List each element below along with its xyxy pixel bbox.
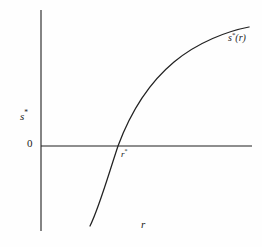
x-axis-label: r bbox=[141, 219, 145, 230]
s-star-curve bbox=[90, 27, 249, 226]
figure-canvas: s* 0 r* r s*(r) bbox=[0, 0, 262, 247]
curve-label: s*(r) bbox=[228, 33, 246, 43]
x-intercept-label: r* bbox=[121, 150, 128, 159]
y-axis-label-superscript: * bbox=[24, 108, 28, 117]
plot-svg bbox=[0, 0, 262, 247]
origin-tick-label: 0 bbox=[27, 138, 33, 149]
y-axis-label: s* bbox=[20, 111, 28, 122]
curve-label-argument: (r) bbox=[235, 32, 246, 43]
x-intercept-label-superscript: * bbox=[125, 148, 128, 154]
